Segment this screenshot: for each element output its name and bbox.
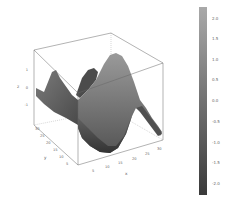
y-tick: 15 [53,148,58,152]
colorbar-tick: 1.0 [212,57,219,62]
x-tick: 15 [118,161,123,165]
surface [36,53,162,153]
colorbar-tick: -2.0 [212,181,220,186]
y-tick: 30 [35,127,40,131]
z-axis: 1 0 -1 z [17,68,29,107]
x-tick: 10 [105,165,110,169]
colorbar-tick: -1.0 [212,140,220,145]
z-axis-label: z [17,84,20,89]
colorbar-tick: 1.5 [212,36,219,41]
colorbar-tick: 0.5 [212,77,219,82]
y-tick: 25 [40,134,45,138]
x-tick: 20 [132,157,137,161]
colorbar-tick: 0.0 [212,98,219,103]
surface-plot: 1 0 -1 z 30 25 20 15 10 5 y 5 10 15 20 2… [0,0,238,207]
colorbar-gradient [199,7,207,195]
colorbar-tick: 2.0 [212,16,219,21]
x-tick: 25 [145,152,150,156]
x-axis-label: x [125,171,128,176]
colorbar: 2.0 1.5 1.0 0.5 0.0 -0.5 -1.0 -1.5 -2.0 [199,7,220,195]
y-axis: 30 25 20 15 10 5 y [35,127,68,166]
z-tick: 0 [26,86,29,90]
y-tick: 10 [59,155,64,159]
y-tick: 20 [46,141,51,145]
y-tick: 5 [66,162,68,166]
x-tick: 5 [92,169,94,173]
colorbar-tick: -1.5 [212,160,220,165]
x-tick: 30 [157,147,162,151]
colorbar-tick: -0.5 [212,119,220,124]
z-tick: 1 [26,68,28,72]
z-tick: -1 [24,103,28,107]
y-axis-label: y [44,155,47,160]
